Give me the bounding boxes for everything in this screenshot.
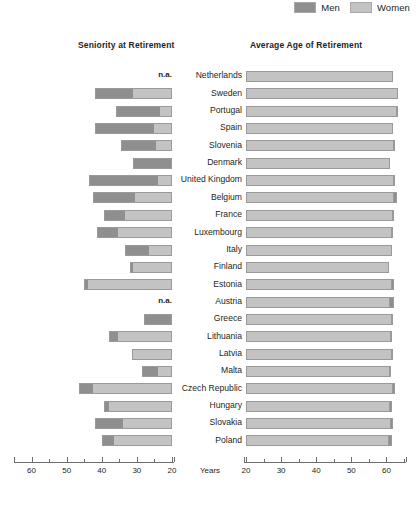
retirement-age-segment-men [389, 297, 394, 308]
retirement-age-segment-women [246, 245, 392, 256]
country-label: Czech Republic [178, 383, 242, 394]
axis-tick-minor [49, 459, 50, 462]
axis-tick-label: 30 [132, 466, 141, 475]
chart-row: Spain [0, 120, 418, 137]
chart-row: Portugal [0, 103, 418, 120]
axis-tick-label: 20 [168, 466, 177, 475]
retirement-age-segment-women [246, 314, 391, 325]
retirement-age-bar [246, 366, 391, 377]
country-label: Slovenia [178, 140, 242, 151]
seniority-bar-segment-men [125, 245, 150, 256]
retirement-age-segment-women [246, 435, 388, 446]
axis-tick-major [351, 457, 352, 462]
axis-cap-right-end [406, 457, 407, 462]
retirement-age-segment-women [246, 175, 393, 186]
retirement-age-segment-women [246, 210, 392, 221]
seniority-bar-segment-women [158, 175, 172, 186]
axis-tick-label: 60 [27, 466, 36, 475]
seniority-bar [89, 175, 172, 186]
axis-cap-left-end [174, 457, 175, 462]
retirement-age-bar [246, 123, 393, 134]
seniority-bar-segment-women [114, 435, 172, 446]
seniority-bar-segment-women [171, 158, 172, 169]
axis-tick-label: 50 [347, 466, 356, 475]
axis-tick-major [316, 457, 317, 462]
axis-tick-minor [154, 459, 155, 462]
seniority-bar-segment-men [133, 158, 171, 169]
retirement-age-segment-women [246, 331, 390, 342]
axis-line-left [14, 462, 174, 463]
seniority-bar [95, 88, 172, 99]
chart-row: Finland [0, 259, 418, 276]
seniority-na-marker: n.a. [158, 296, 172, 305]
seniority-bar [109, 331, 172, 342]
chart-row: Belgium [0, 189, 418, 206]
seniority-bar-segment-men [104, 210, 125, 221]
retirement-age-segment-women [246, 106, 396, 117]
axis-tick-label: 30 [277, 466, 286, 475]
seniority-bar-segment-women [88, 279, 172, 290]
retirement-age-segment-women [246, 192, 393, 203]
axis-tick-minor [264, 459, 265, 462]
chart-row: Sweden [0, 85, 418, 102]
retirement-age-segment-women [246, 262, 389, 273]
seniority-bar-segment-women [133, 349, 172, 360]
retirement-age-bar [246, 418, 393, 429]
country-label: Lithuania [178, 331, 242, 342]
retirement-age-segment-men [391, 349, 393, 360]
retirement-age-bar [246, 158, 390, 169]
seniority-bar-segment-women [154, 123, 172, 134]
axis-tick-label: 20 [242, 466, 251, 475]
seniority-bar-segment-men [89, 175, 157, 186]
retirement-age-bar [246, 88, 398, 99]
retirement-age-bar [246, 175, 395, 186]
seniority-bar-segment-women [171, 314, 172, 325]
country-label: Italy [178, 244, 242, 255]
chart-row: Malta [0, 363, 418, 380]
axis-tick-minor [334, 459, 335, 462]
chart-row: Estonia [0, 276, 418, 293]
seniority-bar-segment-women [118, 331, 172, 342]
axis-tick-major [172, 457, 173, 462]
seniority-bar [84, 279, 172, 290]
retirement-age-segment-men [392, 383, 394, 394]
seniority-bar [104, 210, 172, 221]
retirement-age-segment-women [246, 88, 398, 99]
axis-tick-major [386, 457, 387, 462]
retirement-age-bar [246, 210, 394, 221]
seniority-bar [142, 366, 172, 377]
chart-row: Denmark [0, 155, 418, 172]
retirement-age-segment-men [390, 418, 392, 429]
seniority-bar [95, 123, 172, 134]
country-label: Denmark [178, 157, 242, 168]
seniority-bar [116, 106, 172, 117]
retirement-age-segment-men [388, 435, 392, 446]
retirement-age-segment-men [396, 106, 398, 117]
axis-line-right [244, 462, 406, 463]
chart-row: France [0, 207, 418, 224]
chart-row: n.a.Austria [0, 294, 418, 311]
seniority-bar-segment-men [95, 88, 134, 99]
axis-label-years: Years [178, 466, 242, 475]
retirement-age-segment-men [393, 175, 395, 186]
retirement-age-bar [246, 192, 397, 203]
country-label: Spain [178, 122, 242, 133]
seniority-bar-segment-women [133, 262, 172, 273]
retirement-chart: Men Women Seniority at Retirement Averag… [0, 0, 418, 506]
seniority-bar [95, 418, 172, 429]
retirement-age-bar [246, 279, 394, 290]
axis-tick-minor [299, 459, 300, 462]
seniority-bar [144, 314, 172, 325]
retirement-age-bar [246, 383, 395, 394]
country-label: United Kingdom [178, 174, 242, 185]
chart-row: United Kingdom [0, 172, 418, 189]
seniority-bar-segment-women [156, 140, 172, 151]
seniority-bar-segment-women [133, 88, 172, 99]
axis-tick-minor [369, 459, 370, 462]
retirement-age-segment-men [391, 227, 393, 238]
seniority-bar [132, 349, 172, 360]
retirement-age-bar [246, 245, 392, 256]
seniority-bar [104, 401, 172, 412]
axis-tick-minor [404, 459, 405, 462]
country-label: Poland [178, 435, 242, 446]
